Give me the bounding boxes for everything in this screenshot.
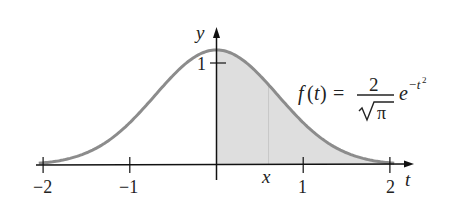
x-tick-label-1: 1 (298, 177, 307, 197)
chart: −2 −1 1 2 1 t y x f ( t ) = 2 π e −t 2 (0, 0, 455, 202)
function-denominator: π (377, 103, 386, 123)
function-exponent: −t (408, 77, 421, 92)
function-lhs-close: ) (320, 82, 327, 105)
x-tick-label-2: 2 (386, 177, 395, 197)
function-label: f ( t ) = 2 π e −t 2 (298, 74, 427, 123)
y-axis-arrow-icon (213, 27, 220, 38)
function-base: e (399, 82, 408, 104)
function-equals: = (333, 82, 344, 104)
x-tick-label-neg2: −2 (33, 177, 52, 197)
x-axis (36, 164, 406, 165)
function-numerator: 2 (369, 74, 379, 95)
x-axis-arrow-icon (404, 161, 414, 168)
y-tick-label-1: 1 (197, 54, 206, 74)
x-tick-label-neg1: −1 (119, 177, 138, 197)
shaded-area (217, 50, 390, 165)
function-exponent-power: 2 (422, 75, 427, 85)
x-marker-label: x (261, 166, 271, 187)
x-axis-label: t (405, 169, 411, 190)
function-lhs-paren: ( (307, 82, 314, 105)
function-lhs-f: f (298, 82, 306, 105)
y-axis-label: y (194, 22, 205, 43)
